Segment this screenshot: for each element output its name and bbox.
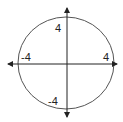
circle xyxy=(18,17,114,109)
label-x-right: 4 xyxy=(103,51,109,63)
circle-diagram: 4 -4 -4 4 xyxy=(0,0,123,122)
label-y-bottom: -4 xyxy=(48,95,58,107)
label-y-top: 4 xyxy=(55,22,61,34)
label-x-left: -4 xyxy=(21,51,31,63)
